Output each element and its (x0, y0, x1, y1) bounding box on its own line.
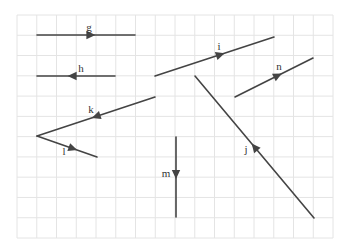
vector-label: n (276, 60, 282, 72)
vector-label: m (162, 167, 171, 179)
vector-label: k (88, 103, 94, 115)
vector-label: i (217, 40, 220, 52)
vector-l: l (37, 136, 97, 157)
vector-g: g (37, 21, 135, 39)
vector-label: j (243, 143, 247, 155)
arrowhead-icon (68, 72, 77, 80)
arrowhead-icon (172, 170, 180, 179)
vector-diagram: ghinklmj (0, 0, 351, 252)
vector-label: g (86, 21, 92, 33)
vector-label: l (62, 145, 65, 157)
vector-label: h (78, 62, 84, 74)
vector-line (37, 136, 97, 157)
